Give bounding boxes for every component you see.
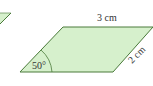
top-side-label: 3 cm (97, 12, 117, 23)
parallelogram-diagram: 50° 3 cm 2 cm (0, 0, 153, 86)
angle-label: 50° (32, 60, 46, 71)
